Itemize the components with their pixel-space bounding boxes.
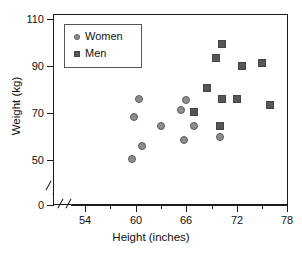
x-tick-label: 60 — [130, 214, 142, 226]
data-point-women — [180, 136, 188, 144]
data-point-women — [128, 155, 136, 163]
legend-label: Men — [85, 48, 106, 59]
x-tick-mark-minor — [161, 205, 162, 209]
data-point-women — [130, 113, 138, 121]
x-tick-label: 66 — [180, 214, 192, 226]
x-tick-mark — [136, 205, 137, 212]
circle-marker-icon — [74, 34, 80, 40]
y-tick-label: 50 — [32, 154, 44, 166]
data-point-men — [218, 95, 226, 103]
x-tick-label: 78 — [281, 214, 293, 226]
data-point-women — [177, 106, 185, 114]
y-axis: 110 90 70 50 0 — [0, 0, 53, 254]
data-point-women — [190, 122, 198, 130]
data-point-men — [212, 54, 220, 62]
y-tick-label: 90 — [32, 60, 44, 72]
x-axis-title: Height (inches) — [0, 231, 302, 243]
data-point-women — [135, 95, 143, 103]
x-tick-mark — [186, 205, 187, 212]
data-point-men — [190, 108, 198, 116]
x-tick-mark-minor — [212, 205, 213, 209]
legend: Women Men — [64, 24, 142, 68]
data-point-women — [157, 122, 165, 130]
y-tick-label: 0 — [38, 199, 44, 211]
data-point-men — [216, 122, 224, 130]
y-tick-label: 110 — [26, 13, 44, 25]
data-point-men — [233, 95, 241, 103]
data-point-women — [216, 133, 224, 141]
x-tick-mark-minor — [262, 205, 263, 209]
x-tick-mark — [237, 205, 238, 212]
x-tick-mark — [85, 205, 86, 212]
legend-label: Women — [85, 31, 123, 42]
data-point-men — [218, 40, 226, 48]
x-tick-mark — [287, 205, 288, 212]
x-tick-mark-minor — [110, 205, 111, 209]
x-axis-line — [71, 205, 288, 206]
data-point-women — [182, 96, 190, 104]
y-tick-label: 70 — [32, 107, 44, 119]
data-point-women — [138, 142, 146, 150]
data-point-men — [203, 84, 211, 92]
data-point-men — [266, 101, 274, 109]
data-point-men — [238, 62, 246, 70]
square-marker-icon — [74, 51, 80, 57]
scatter-plot-figure: Weight (kg) 110 90 70 50 0 54 60 66 72 7… — [0, 0, 302, 254]
data-point-men — [258, 59, 266, 67]
legend-entry-women: Women — [74, 31, 123, 42]
legend-entry-men: Men — [74, 48, 106, 59]
x-tick-label: 72 — [231, 214, 243, 226]
x-tick-label: 54 — [79, 214, 91, 226]
